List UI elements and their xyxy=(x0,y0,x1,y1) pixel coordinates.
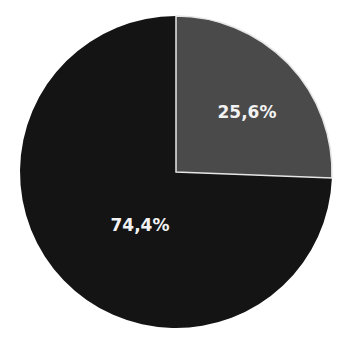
pie-chart: 25,6% 74,4% xyxy=(0,0,349,342)
pie-slice-1 xyxy=(176,16,332,178)
slice-label-small: 25,6% xyxy=(218,102,277,122)
slice-label-large: 74,4% xyxy=(111,215,170,235)
